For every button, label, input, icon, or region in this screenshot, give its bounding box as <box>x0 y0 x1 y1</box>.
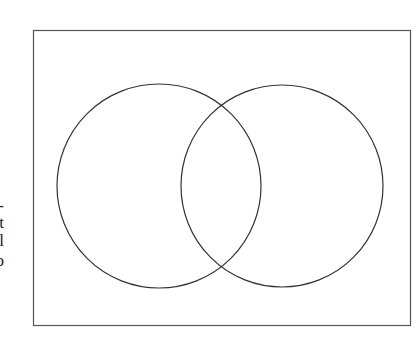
left-circle <box>57 84 261 288</box>
diagram-frame <box>34 31 411 326</box>
right-circle <box>181 85 383 287</box>
venn-diagram <box>0 0 420 340</box>
